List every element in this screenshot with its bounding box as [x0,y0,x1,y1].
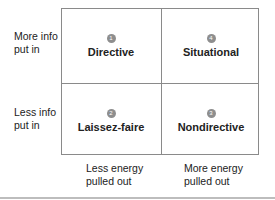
y-label-bottom-line2: put in [14,119,56,132]
quadrant-label: Nondirective [178,121,245,133]
y-label-bottom-line1: Less info [14,106,56,119]
x-label-left-line2: pulled out [86,175,143,188]
quadrant-directive: 1 Directive [62,9,160,82]
number-badge: 1 [107,34,116,43]
y-label-top-line1: More info [14,30,58,43]
x-label-right: More energy pulled out [184,162,243,188]
x-label-right-line1: More energy [184,162,243,175]
quadrant-nondirective: 3 Nondirective [162,84,260,157]
quadrant-label: Directive [88,46,134,58]
quadrant-grid: 1 Directive 4 Situational 2 Laissez-fair… [61,8,259,155]
quadrant-label: Laissez-faire [78,121,145,133]
y-label-top: More info put in [14,30,58,56]
y-label-bottom: Less info put in [14,106,56,132]
number-badge: 3 [207,109,216,118]
quadrant-laissez-faire: 2 Laissez-faire [62,84,160,157]
x-label-left-line1: Less energy [86,162,143,175]
number-badge: 2 [107,109,116,118]
x-label-left: Less energy pulled out [86,162,143,188]
number-badge: 4 [207,34,216,43]
x-label-right-line2: pulled out [184,175,243,188]
quadrant-label: Situational [183,46,239,58]
quadrant-situational: 4 Situational [162,9,260,82]
y-label-top-line2: put in [14,43,58,56]
bottom-divider [0,197,275,199]
